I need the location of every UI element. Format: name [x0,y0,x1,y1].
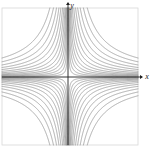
plot-canvas: x y [0,0,155,155]
contour-plot-figure: x y [0,0,155,155]
y-axis-label: y [69,1,74,10]
x-axis-label: x [144,72,149,81]
